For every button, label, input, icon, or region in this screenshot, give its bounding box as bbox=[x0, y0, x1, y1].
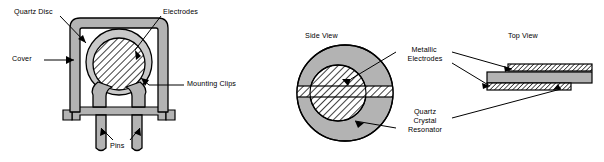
top-view-resonator-slab bbox=[487, 72, 592, 83]
diagram-graphics bbox=[0, 0, 604, 162]
leader-metallic-to-top-lower bbox=[452, 63, 490, 86]
heading-top-view: Top View bbox=[508, 32, 538, 41]
label-quartz-disc: Quartz Disc bbox=[14, 8, 53, 17]
label-electrodes: Electrodes bbox=[163, 8, 198, 17]
leader-metallic-to-top-upper bbox=[452, 52, 512, 69]
label-mounting-clips: Mounting Clips bbox=[187, 80, 236, 89]
crystal-holder-assembly bbox=[44, 16, 184, 151]
label-quartz-crystal-resonator-line3: Resonator bbox=[396, 126, 454, 135]
quartz-disc bbox=[93, 38, 145, 90]
top-view-graphic bbox=[487, 64, 592, 90]
diagram-canvas: Quartz Disc Electrodes Cover Mounting Cl… bbox=[0, 0, 604, 162]
heading-side-view: Side View bbox=[305, 32, 338, 41]
side-view-graphic bbox=[295, 45, 395, 141]
top-view-top-electrode bbox=[508, 64, 592, 71]
label-pins: Pins bbox=[110, 142, 124, 151]
leader-quartz-to-top bbox=[452, 89, 561, 118]
label-metallic-electrodes-line2: Electrodes bbox=[398, 55, 452, 64]
label-cover: Cover bbox=[12, 55, 32, 64]
